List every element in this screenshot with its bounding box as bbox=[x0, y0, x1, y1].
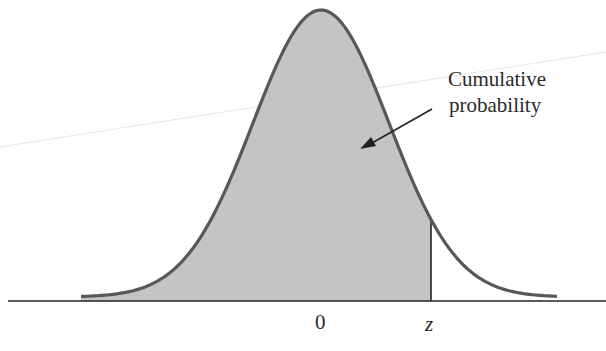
mean-label: 0 bbox=[315, 310, 326, 334]
normal-curve-figure: Cumulative probability 0 z bbox=[0, 0, 606, 351]
annotation-line2: probability bbox=[449, 93, 542, 117]
cumulative-area bbox=[81, 10, 431, 301]
z-label: z bbox=[424, 312, 433, 336]
annotation-line1: Cumulative bbox=[448, 67, 546, 91]
